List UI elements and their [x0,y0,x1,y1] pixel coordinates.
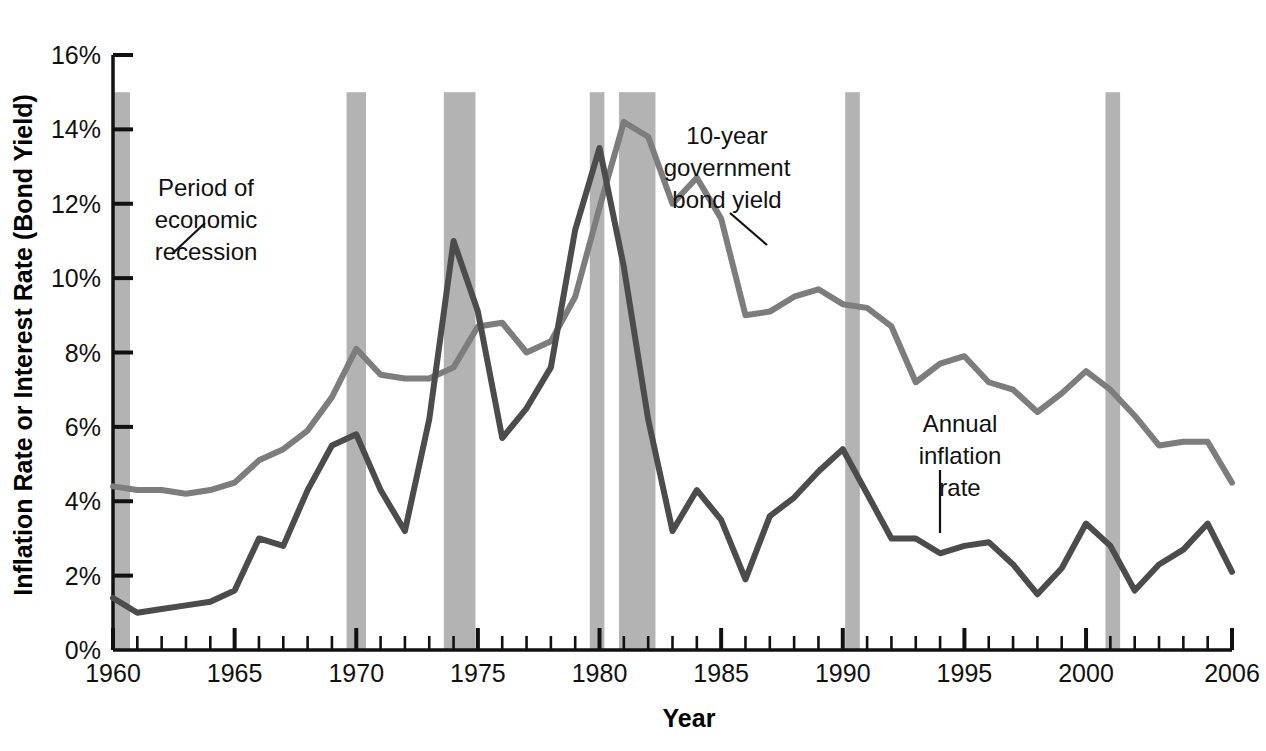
recession-band [347,92,366,650]
annotation-label: government [664,154,791,181]
annotation-label: 10-year [686,122,767,149]
annotation-label: Period of [158,174,254,201]
x-axis-tick-label: 1985 [693,659,749,687]
recession-band [1106,92,1121,650]
x-axis-tick-label: 1995 [937,659,993,687]
y-axis-tick-label: 8% [65,339,101,367]
annotation-label: inflation [919,442,1002,469]
x-axis-tick-label: 1965 [207,659,263,687]
x-axis-tick-label: 2000 [1058,659,1114,687]
annotation-label: bond yield [672,186,781,213]
annotation-label: recession [155,238,258,265]
x-axis-tick-label: 1970 [328,659,384,687]
x-axis-tick-label: 1980 [572,659,628,687]
x-axis-tick-label: 1975 [450,659,506,687]
y-axis-tick-label: 2% [65,562,101,590]
x-axis-tick-label: 2006 [1204,659,1260,687]
y-axis-tick-label: 12% [51,190,101,218]
x-axis-title: Year [663,704,716,732]
recession-band [113,92,130,650]
recession-band [845,92,860,650]
annotation-label: Annual [923,410,998,437]
x-axis-tick-label: 1990 [815,659,871,687]
annotation-label: economic [155,206,258,233]
economic-indicators-line-chart: 0%2%4%6%8%10%12%14%16% 19601965197019751… [0,0,1266,751]
y-axis-tick-label: 14% [51,115,101,143]
x-axis-tick-label: 1960 [85,659,141,687]
y-axis-tick-label: 6% [65,413,101,441]
y-axis-tick-label: 4% [65,487,101,515]
recession-band [619,92,655,650]
y-axis-tick-label: 16% [51,41,101,69]
chart-screenshot: 0%2%4%6%8%10%12%14%16% 19601965197019751… [0,0,1266,751]
annotation-label: rate [939,474,980,501]
y-axis-title: Inflation Rate or Interest Rate (Bond Yi… [9,94,37,595]
y-axis-tick-label: 10% [51,264,101,292]
